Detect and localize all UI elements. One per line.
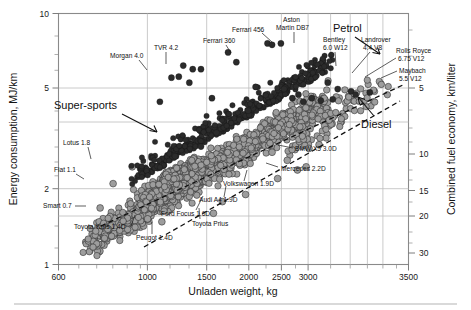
scatter-point bbox=[156, 181, 162, 187]
scatter-point bbox=[258, 96, 263, 101]
scatter-point bbox=[284, 157, 291, 164]
scatter-point bbox=[303, 105, 309, 111]
point-label-tvr: TVR 4.2 bbox=[154, 44, 179, 51]
scatter-point bbox=[213, 130, 219, 136]
scatter-point bbox=[320, 56, 325, 61]
scatter-point bbox=[166, 158, 171, 163]
annotation-diesel-label: Diesel bbox=[361, 118, 392, 130]
scatter-point bbox=[273, 109, 279, 115]
scatter-point bbox=[260, 136, 266, 142]
scatter-point bbox=[335, 98, 341, 104]
scatter-point bbox=[235, 110, 240, 115]
scatter-point bbox=[322, 64, 327, 69]
y2-tick-label-15: 15 bbox=[419, 186, 429, 196]
scatter-point bbox=[132, 224, 138, 230]
scatter-point bbox=[299, 75, 304, 80]
scatter-point bbox=[296, 64, 301, 69]
scatter-point bbox=[282, 92, 287, 97]
scatter-point bbox=[201, 129, 206, 134]
scatter-point bbox=[171, 176, 177, 182]
scatter-point bbox=[275, 125, 281, 131]
scatter-plot-svg: 10 5 2 1 Energy consumption, MJ/km 5 10 bbox=[0, 0, 471, 310]
scatter-point bbox=[117, 237, 123, 243]
scatter-point bbox=[148, 205, 154, 211]
scatter-point bbox=[293, 74, 298, 79]
scatter-point bbox=[108, 233, 114, 239]
point-label-yaris: Toyota Yaris 1.4D bbox=[74, 223, 126, 231]
scatter-point bbox=[173, 165, 179, 171]
scatter-point bbox=[319, 70, 324, 75]
y2-tick-label-30: 30 bbox=[419, 248, 429, 258]
point-label-bmw: BMW X5 3.0D bbox=[295, 145, 337, 152]
scatter-point bbox=[337, 123, 343, 129]
scatter-point bbox=[203, 120, 208, 125]
scatter-point bbox=[309, 112, 315, 118]
scatter-point bbox=[295, 92, 301, 98]
x-tick-label-600: 600 bbox=[51, 272, 65, 282]
scatter-point bbox=[233, 59, 239, 65]
scatter-point bbox=[300, 99, 306, 105]
scatter-point bbox=[245, 108, 251, 114]
scatter-point bbox=[172, 153, 178, 159]
scatter-point bbox=[309, 60, 314, 65]
scatter-point bbox=[152, 139, 157, 144]
scatter-point bbox=[180, 133, 185, 138]
point-label-ferrari360: Ferrari 360 bbox=[203, 37, 236, 44]
scatter-point bbox=[233, 151, 239, 157]
scatter-point bbox=[323, 126, 329, 132]
x-axis-title: Unladen weight, kg bbox=[188, 285, 277, 297]
scatter-point bbox=[193, 144, 198, 149]
scatter-point bbox=[338, 116, 344, 122]
scatter-point bbox=[105, 215, 111, 221]
y2-tick-label-10: 10 bbox=[419, 149, 429, 159]
scatter-point bbox=[208, 145, 214, 151]
scatter-point bbox=[330, 96, 336, 102]
point-label-focus: Ford Focus 1.6D bbox=[161, 210, 210, 217]
scatter-point bbox=[183, 137, 188, 142]
x-tick-label-1500: 1500 bbox=[197, 272, 216, 282]
scatter-point bbox=[130, 186, 136, 192]
y-axis-title: Energy consumption, MJ/km bbox=[7, 73, 19, 206]
scatter-point bbox=[157, 158, 162, 163]
point-label-peugot: Peugot 1.4D bbox=[136, 234, 173, 242]
scatter-point bbox=[177, 143, 182, 148]
scatter-point bbox=[139, 155, 144, 160]
y2-tick-label-20: 20 bbox=[419, 211, 429, 221]
scatter-point bbox=[364, 77, 370, 83]
scatter-point bbox=[299, 133, 305, 139]
scatter-point bbox=[216, 176, 222, 182]
point-label-smart: Smart 0.7 bbox=[43, 202, 72, 209]
scatter-point bbox=[129, 163, 134, 168]
scatter-point bbox=[180, 63, 186, 69]
scatter-point bbox=[198, 143, 204, 149]
scatter-point bbox=[181, 166, 187, 172]
scatter-point bbox=[247, 101, 252, 106]
scatter-point bbox=[206, 127, 211, 132]
scatter-point bbox=[206, 180, 212, 186]
point-label-landrover-2: 4.4 V8 bbox=[363, 44, 382, 51]
scatter-point bbox=[257, 103, 262, 108]
scatter-point bbox=[253, 84, 259, 90]
y-tick-label-2: 2 bbox=[44, 184, 49, 194]
scatter-point bbox=[157, 164, 162, 169]
scatter-point bbox=[97, 205, 104, 212]
scatter-point bbox=[315, 116, 321, 122]
scatter-point bbox=[357, 108, 363, 114]
point-label-morgan: Morgan 4.0 bbox=[110, 52, 144, 60]
scatter-point bbox=[318, 97, 324, 103]
scatter-point bbox=[157, 99, 163, 105]
scatter-point bbox=[146, 194, 152, 200]
scatter-point bbox=[309, 95, 315, 101]
scatter-point bbox=[187, 146, 192, 151]
point-label-bentley-2: 6.0 W12 bbox=[323, 44, 348, 51]
scatter-point bbox=[263, 150, 269, 156]
y-tick-label-5: 5 bbox=[44, 83, 49, 93]
scatter-point bbox=[257, 125, 263, 131]
scatter-point bbox=[247, 160, 253, 166]
scatter-point bbox=[342, 87, 348, 93]
point-label-prius: Toyota Prius bbox=[192, 220, 229, 228]
x-tick-label-2500: 2500 bbox=[272, 272, 291, 282]
scatter-point bbox=[352, 92, 358, 98]
annotation-petrol-label: Petrol bbox=[333, 22, 362, 34]
scatter-point bbox=[323, 135, 329, 141]
